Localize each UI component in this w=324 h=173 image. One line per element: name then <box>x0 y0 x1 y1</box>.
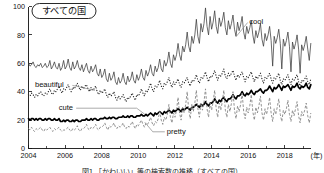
x-tick-label: 2004 <box>21 151 37 160</box>
series-line-beautiful <box>29 69 311 102</box>
y-tick-label: 100 <box>13 2 25 11</box>
y-tick-label: 80 <box>17 31 25 40</box>
y-tick-label: 60 <box>17 59 25 68</box>
series-lines <box>29 8 311 132</box>
series-label-beautiful: beautiful <box>35 80 64 89</box>
y-tick-label: 40 <box>17 87 25 96</box>
figure-caption: 図1 「かわいい」等の検索数の推移（すべての国） <box>0 166 324 173</box>
x-tick-label: 2010 <box>130 151 146 160</box>
series-label-cool: cool <box>249 17 263 26</box>
series-labels: coolbeautifulcutepretty <box>35 17 263 137</box>
figure-container: 0204060801002004200620082010201220142016… <box>0 0 324 173</box>
x-tick-label: 2012 <box>167 151 183 160</box>
x-tick-label: 2006 <box>57 151 73 160</box>
y-tick-label: 20 <box>17 116 25 125</box>
x-tick-label: 2018 <box>277 151 293 160</box>
series-line-cool <box>29 8 311 85</box>
leader-line-cute <box>76 108 145 114</box>
x-tick-label: 2014 <box>204 151 220 160</box>
x-axis-unit-label: (年) <box>311 151 323 160</box>
line-chart: 0204060801002004200620082010201220142016… <box>0 0 324 173</box>
series-label-pretty: pretty <box>167 127 186 136</box>
title-badge: すべての国 <box>32 4 96 19</box>
x-tick-label: 2016 <box>240 151 256 160</box>
title-badge-label: すべての国 <box>42 5 86 16</box>
x-tick-label: 2008 <box>94 151 110 160</box>
series-label-cute: cute <box>59 103 73 112</box>
